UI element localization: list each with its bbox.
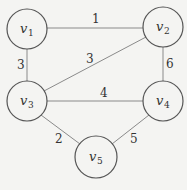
edge-v3-v2	[44, 37, 146, 91]
weight-v1-v2: 1	[92, 12, 100, 26]
weight-v3-v5: 2	[55, 132, 63, 146]
node-v5: v 5	[75, 136, 117, 178]
node-v1: v 1	[7, 9, 47, 49]
node-v3-label: v	[20, 93, 28, 108]
weighted-graph: 1 3 3 6 4 2 5 v 1 v 2 v 3 v 4 v 5	[0, 0, 187, 190]
node-v3: v 3	[7, 81, 47, 121]
node-v4: v 4	[143, 81, 183, 121]
node-v1-sub: 1	[28, 28, 34, 38]
node-v5-label: v	[89, 149, 97, 164]
node-v4-label: v	[156, 93, 164, 108]
weight-v3-v4: 4	[100, 86, 108, 100]
node-v2-label: v	[156, 19, 164, 34]
weight-v3-v2: 3	[86, 52, 94, 66]
node-v2: v 2	[143, 7, 183, 47]
node-v5-sub: 5	[97, 156, 103, 166]
weight-v4-v5: 5	[130, 132, 138, 146]
node-v4-sub: 4	[164, 100, 170, 110]
node-v3-sub: 3	[28, 100, 34, 110]
node-v1-label: v	[20, 21, 28, 36]
node-v2-sub: 2	[164, 26, 170, 36]
weight-v1-v3: 3	[17, 58, 25, 72]
weight-v2-v4: 6	[166, 57, 174, 71]
